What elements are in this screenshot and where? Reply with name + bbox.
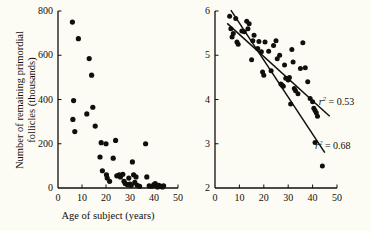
x-tick-label-right-10: 10: [227, 192, 251, 203]
y-axis-title-left-line1: Number of remaining primordial: [14, 10, 26, 190]
x-tick-label-right-0: 0: [203, 192, 227, 203]
data-point-left-2: [72, 129, 77, 134]
chart-panel-left: Age of subject (years) Number of remaini…: [0, 0, 190, 231]
data-point-left-26: [126, 175, 131, 180]
data-point-right-36: [291, 59, 296, 64]
data-point-left-16: [107, 179, 112, 184]
data-point-left-18: [113, 138, 118, 143]
rsq-068-value: = 0.68: [322, 140, 350, 151]
annotation-r-squared-068: r2 = 0.68: [315, 139, 351, 151]
figure-root: Age of subject (years) Number of remaini…: [0, 0, 371, 231]
data-point-right-29: [281, 84, 286, 89]
data-point-right-40: [298, 66, 303, 71]
data-point-left-11: [99, 140, 104, 145]
y-tick-label-left-400: 400: [25, 94, 53, 105]
data-point-left-15: [104, 172, 109, 177]
data-point-right-13: [250, 38, 255, 43]
x-tick-label-left-40: 40: [142, 192, 166, 203]
x-tick-label-left-10: 10: [70, 192, 94, 203]
x-tick-label-left-20: 20: [94, 192, 118, 203]
data-point-right-41: [300, 40, 305, 45]
data-point-right-4: [233, 16, 238, 21]
y-tick-label-right-5: 5: [182, 49, 210, 60]
data-point-right-39: [295, 91, 300, 96]
x-tick-label-right-20: 20: [252, 192, 276, 203]
data-point-left-3: [71, 98, 76, 103]
data-point-right-3: [231, 31, 236, 36]
y-tick-label-right-2: 2: [182, 182, 210, 193]
data-point-right-19: [261, 73, 266, 78]
data-point-right-11: [247, 21, 252, 26]
y-tick-label-right-6: 6: [182, 5, 210, 16]
data-point-right-12: [249, 57, 254, 62]
data-point-left-9: [93, 123, 98, 128]
data-point-right-30: [282, 62, 287, 67]
chart-panel-right: Age of subject (years) Log (number of re…: [181, 0, 371, 231]
data-point-left-29: [130, 159, 135, 164]
x-tick-label-left-0: 0: [46, 192, 70, 203]
y-tick-label-right-4: 4: [182, 94, 210, 105]
x-tick-label-right-50: 50: [325, 192, 349, 203]
data-point-left-7: [84, 111, 89, 116]
data-point-right-24: [274, 38, 279, 43]
y-tick-label-left-0: 0: [25, 182, 53, 193]
data-point-left-6: [89, 73, 94, 78]
data-point-right-22: [269, 68, 274, 73]
y-tick-label-left-200: 200: [25, 138, 53, 149]
data-point-right-0: [227, 14, 232, 19]
data-point-left-1: [70, 117, 75, 122]
data-point-left-35: [143, 141, 148, 146]
data-point-left-12: [100, 168, 105, 173]
x-tick-label-right-30: 30: [276, 192, 300, 203]
x-tick-label-right-40: 40: [301, 192, 325, 203]
data-point-left-17: [111, 156, 116, 161]
data-point-right-51: [320, 163, 325, 168]
data-point-right-20: [263, 39, 268, 44]
x-axis-title-left: Age of subject (years): [28, 210, 188, 221]
data-point-right-35: [289, 47, 294, 52]
y-tick-label-left-600: 600: [25, 49, 53, 60]
rsq-053-value: = 0.53: [326, 96, 354, 107]
data-point-right-14: [252, 33, 257, 38]
data-point-left-5: [87, 56, 92, 61]
data-point-left-0: [70, 19, 75, 24]
data-point-left-34: [137, 184, 142, 189]
data-point-right-33: [287, 75, 292, 80]
x-tick-label-left-30: 30: [118, 192, 142, 203]
data-point-right-49: [315, 114, 320, 119]
data-point-right-1: [228, 26, 233, 31]
data-point-right-17: [259, 49, 264, 54]
data-point-left-10: [97, 154, 102, 159]
data-point-right-45: [310, 99, 315, 104]
data-point-left-36: [144, 174, 149, 179]
data-point-right-10: [245, 26, 250, 31]
data-point-right-42: [303, 65, 308, 70]
data-point-right-43: [305, 79, 310, 84]
data-point-left-4: [76, 36, 81, 41]
data-point-left-46: [161, 183, 166, 188]
data-point-left-22: [120, 172, 125, 177]
data-point-right-21: [266, 49, 271, 54]
data-point-right-23: [271, 43, 276, 48]
y-tick-label-right-3: 3: [182, 138, 210, 149]
data-point-left-32: [133, 174, 138, 179]
y-tick-label-left-800: 800: [25, 5, 53, 16]
data-point-right-6: [236, 42, 241, 47]
data-point-right-26: [277, 53, 282, 58]
annotation-r-squared-053: r2 = 0.53: [319, 95, 355, 107]
data-point-left-13: [103, 141, 108, 146]
data-point-right-16: [256, 39, 261, 44]
data-point-left-8: [90, 105, 95, 110]
data-point-right-34: [288, 101, 293, 106]
